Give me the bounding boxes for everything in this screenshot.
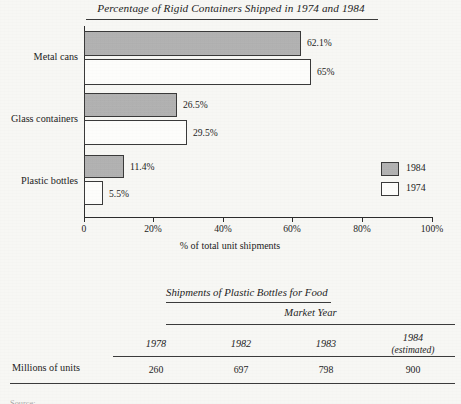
table-column-header-1984-year: 1984 <box>403 332 423 343</box>
table-column-header-1978: 1978 <box>113 338 199 350</box>
bar-value-plastic-bottles-1984: 11.4% <box>130 161 154 172</box>
chart-title-rule <box>86 19 378 20</box>
table-column-header-1982: 1982 <box>198 338 284 350</box>
table-column-header-1983: 1983 <box>283 338 369 350</box>
bar-chart-figure: Percentage of Rigid Containers Shipped i… <box>0 0 461 262</box>
legend-swatch-1974 <box>381 182 399 196</box>
x-tick-mark-40 <box>223 218 224 222</box>
x-tick-mark-80 <box>362 218 363 222</box>
bar-plastic-bottles-1974 <box>84 181 103 205</box>
bar-value-plastic-bottles-1974: 5.5% <box>109 188 129 199</box>
x-tick-label-80: 80% <box>340 223 384 234</box>
x-tick-label-60: 60% <box>270 223 314 234</box>
category-label-glass-containers: Glass containers <box>0 113 78 124</box>
category-label-metal-cans: Metal cans <box>0 51 78 62</box>
bar-value-glass-containers-1974: 29.5% <box>193 127 218 138</box>
shipments-table-figure: Shipments of Plastic Bottles for Food Ma… <box>0 286 461 404</box>
bar-plastic-bottles-1984 <box>84 155 124 178</box>
x-tick-label-20: 20% <box>131 223 175 234</box>
x-axis-title: % of total unit shipments <box>130 240 330 251</box>
table-column-header-1982-year: 1982 <box>231 338 251 349</box>
table-column-header-1983-year: 1983 <box>316 338 336 349</box>
table-title-rule <box>166 302 331 303</box>
table-rule-bottom <box>10 383 455 384</box>
x-tick-mark-60 <box>292 218 293 222</box>
table-cell-1982: 697 <box>198 364 284 375</box>
x-tick-mark-0 <box>84 218 85 222</box>
table-title: Shipments of Plastic Bottles for Food <box>166 286 328 298</box>
bar-value-metal-cans-1984: 62.1% <box>307 37 332 48</box>
table-cell-1983: 798 <box>283 364 369 375</box>
table-column-header-1984: 1984 (estimated) <box>370 332 456 355</box>
legend-label-1974: 1974 <box>406 182 426 193</box>
x-tick-mark-100 <box>432 218 433 222</box>
bar-metal-cans-1984 <box>84 31 301 56</box>
table-span-header-market-year: Market Year <box>166 307 455 318</box>
x-tick-label-100: 100% <box>410 223 454 234</box>
table-cell-1978: 260 <box>113 364 199 375</box>
legend-label-1984: 1984 <box>406 162 426 173</box>
bar-glass-containers-1974 <box>84 120 187 145</box>
chart-title: Percentage of Rigid Containers Shipped i… <box>85 2 377 14</box>
source-note: Source: <box>10 399 36 404</box>
scanned-figure-page: Percentage of Rigid Containers Shipped i… <box>0 0 461 404</box>
legend-swatch-1984 <box>381 162 399 176</box>
category-label-plastic-bottles: Plastic bottles <box>0 175 78 186</box>
table-cell-1984: 900 <box>370 364 456 375</box>
x-axis-line <box>84 217 433 218</box>
x-tick-label-40: 40% <box>201 223 245 234</box>
x-tick-mark-20 <box>153 218 154 222</box>
x-tick-label-0: 0 <box>62 223 106 234</box>
bar-glass-containers-1984 <box>84 93 177 117</box>
table-row-label-millions-of-units: Millions of units <box>12 362 80 373</box>
table-column-header-1984-note: (estimated) <box>370 344 456 356</box>
table-rule-under-column-headers <box>113 356 455 357</box>
bar-value-glass-containers-1984: 26.5% <box>183 99 208 110</box>
bar-value-metal-cans-1974: 65% <box>317 66 335 77</box>
bar-metal-cans-1974 <box>84 59 311 85</box>
table-rule-under-span-header <box>166 324 455 325</box>
table-column-header-1978-year: 1978 <box>146 338 166 349</box>
